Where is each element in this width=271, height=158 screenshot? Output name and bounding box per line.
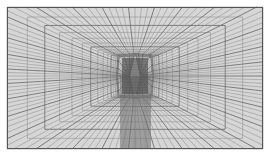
mesh-figure xyxy=(0,0,271,158)
mesh-plot-canvas xyxy=(0,0,271,158)
